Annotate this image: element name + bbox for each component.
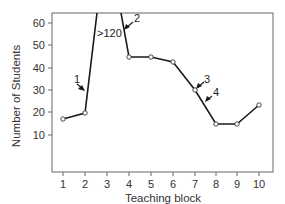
- line-chart: 60 50 40 30 20 10 1 2 3 4 5 6 7 8 9 10 T…: [0, 0, 285, 204]
- y-tick-label: 50: [33, 39, 45, 51]
- y-tick-label: 10: [33, 129, 45, 141]
- y-axis-title: Number of Students: [10, 45, 22, 148]
- x-tick-label: 1: [60, 178, 66, 190]
- x-tick-label: 4: [126, 178, 132, 190]
- x-axis: 1 2 3 4 5 6 7 8 9 10: [60, 172, 265, 190]
- data-point: [235, 122, 239, 126]
- series-line: [63, 0, 259, 124]
- data-point: [83, 111, 87, 115]
- y-tick-label: 40: [33, 62, 45, 74]
- data-point: [61, 117, 65, 121]
- x-axis-title: Teaching block: [125, 192, 201, 204]
- annotation-2-label: 2: [134, 12, 140, 24]
- annotation-3-label: 3: [204, 73, 210, 85]
- data-point: [149, 55, 153, 59]
- x-tick-label: 10: [253, 178, 265, 190]
- data-point: [214, 122, 218, 126]
- y-tick-label: 30: [33, 84, 45, 96]
- x-tick-label: 6: [170, 178, 176, 190]
- data-point: [127, 55, 131, 59]
- x-tick-label: 8: [213, 178, 219, 190]
- annotation-4-label: 4: [213, 86, 219, 98]
- x-tick-label: 9: [234, 178, 240, 190]
- y-tick-label: 60: [33, 17, 45, 29]
- plot-frame: [52, 13, 273, 172]
- peak-label: >120: [97, 27, 122, 39]
- data-point: [257, 103, 261, 107]
- y-tick-label: 20: [33, 106, 45, 118]
- x-tick-label: 5: [148, 178, 154, 190]
- data-point: [171, 60, 175, 64]
- annotation-1-label: 1: [74, 73, 80, 85]
- x-tick-label: 2: [82, 178, 88, 190]
- y-axis: 60 50 40 30 20 10: [33, 17, 52, 141]
- x-tick-label: 3: [104, 178, 110, 190]
- x-tick-label: 7: [192, 178, 198, 190]
